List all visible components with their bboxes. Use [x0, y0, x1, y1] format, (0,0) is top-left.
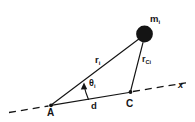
- vector-rci-line: [131, 43, 144, 92]
- mass-marker-icon: [136, 26, 153, 43]
- physics-vector-diagram: mi ri rCi θi d A C x: [0, 0, 195, 122]
- angle-arrowhead-icon: [81, 83, 87, 90]
- point-c-marker-icon: [129, 90, 133, 94]
- label-axis-x: x: [178, 80, 183, 90]
- label-point-c: C: [126, 99, 133, 109]
- label-mass: mi: [150, 14, 160, 24]
- label-distance-d: d: [91, 101, 97, 111]
- vector-ri-line: [52, 39, 140, 105]
- label-point-a: A: [47, 108, 54, 118]
- dashed-axis-line-left: [9, 106, 49, 113]
- label-vector-rci: rCi: [142, 55, 151, 64]
- label-angle-theta: θi: [89, 79, 95, 88]
- label-vector-ri: ri: [95, 55, 100, 65]
